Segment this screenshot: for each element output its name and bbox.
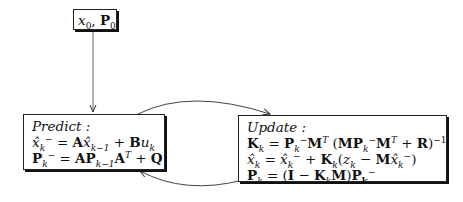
update-equation-gain: Kk = Pk−MT (MPk−MT + R)−1 — [247, 135, 438, 151]
edge-update-to-predict — [140, 171, 243, 186]
edge-predict-to-update — [138, 101, 270, 114]
update-node: Update : Kk = Pk−MT (MPk−MT + R)−1 x̂k =… — [238, 115, 447, 182]
update-equation-covariance: Pk = (I − KkM)Pk− — [247, 167, 438, 183]
init-node: x0, P0 — [73, 9, 117, 30]
predict-heading: Predict : — [32, 118, 156, 134]
predict-equation-covariance: Pk− = APk−1AT + Q — [32, 150, 156, 166]
update-heading: Update : — [247, 119, 438, 135]
init-label: x0, P0 — [78, 12, 112, 28]
predict-node: Predict : x̂k− = Ax̂k−1 + Buk Pk− = APk−… — [23, 114, 165, 170]
predict-equation-state: x̂k− = Ax̂k−1 + Buk — [32, 134, 156, 150]
update-equation-state: x̂k = x̂k− + Kk(zk − Mx̂k−) — [247, 151, 438, 167]
